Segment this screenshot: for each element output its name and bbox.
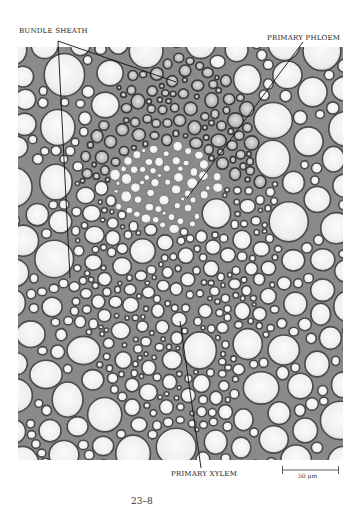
figure-number: 23–8 bbox=[131, 496, 153, 506]
label-primary-xylem: PRIMARY XYLEM bbox=[171, 470, 237, 478]
bundle-sheath-leader-2 bbox=[58, 41, 70, 278]
bundle-sheath-leader-1 bbox=[58, 41, 176, 82]
primary-xylem-leader bbox=[180, 321, 201, 468]
leader-lines bbox=[0, 0, 363, 506]
primary-phloem-leader bbox=[187, 42, 303, 198]
scale-bar-label: 50 μm bbox=[298, 472, 317, 479]
